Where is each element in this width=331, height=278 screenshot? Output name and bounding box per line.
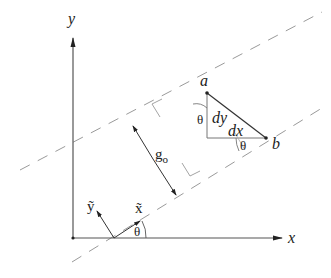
theta-a-label: θ <box>197 112 203 127</box>
y-axis-label: y <box>66 10 76 28</box>
strip-geometry-diagram: y x a b dy dx θ θ θ go ỹ x̃ <box>0 0 331 278</box>
y-tilde-label: ỹ <box>87 198 95 214</box>
x-axis-label: x <box>287 229 295 246</box>
dx-label: dx <box>228 122 243 139</box>
theta-arc-b <box>236 138 239 151</box>
theta-origin-label: θ <box>134 224 140 239</box>
x-tilde-label: x̃ <box>135 200 143 216</box>
g-dimension-line <box>133 126 153 159</box>
theta-arc-a <box>193 104 207 108</box>
y-tilde-axis <box>97 211 114 238</box>
width-label-subscript: o <box>163 153 169 165</box>
width-label: go <box>155 146 169 165</box>
point-b-label: b <box>272 135 280 152</box>
point-a <box>205 91 209 95</box>
dy-label: dy <box>212 109 228 127</box>
theta-arc-origin <box>142 221 146 238</box>
point-a-label: a <box>200 72 208 89</box>
lower-extension <box>182 163 200 176</box>
origin-dot <box>71 236 74 239</box>
axes <box>71 38 282 240</box>
lower-dashed-line <box>72 108 322 262</box>
point-b <box>264 136 268 140</box>
upper-extension <box>152 99 162 117</box>
theta-b-label: θ <box>240 138 246 153</box>
